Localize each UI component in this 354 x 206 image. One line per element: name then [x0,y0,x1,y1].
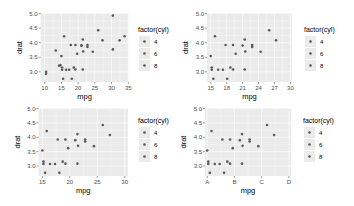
data-point [54,49,57,52]
data-point [268,29,271,32]
legend-title: factor(cyl) [138,117,169,125]
legend-point-icon [143,143,146,146]
y-axis-label: drat [15,40,24,54]
y-tick-label: 3.0 [194,163,203,169]
x-tick-label: 27 [271,85,278,91]
data-point [61,66,64,69]
data-point [241,44,244,47]
legend-label: 4 [320,39,324,45]
data-point [207,160,210,163]
data-point [243,38,246,41]
data-point [273,134,276,137]
x-tick-label: 15 [58,85,65,91]
data-point [63,35,66,38]
data-point [209,55,212,58]
legend-point-icon [308,155,311,158]
chart-panel-bottom-right: ABCD3.03.54.04.55.0mpgdratfactor(cyl)468 [179,106,334,195]
x-axis-label: mpg [241,186,256,195]
y-tick-label: 4.5 [194,120,203,126]
x-tick-label: 15 [207,85,214,91]
data-point [97,29,100,32]
data-point [210,130,213,133]
data-point [61,160,64,163]
data-point [42,163,45,166]
data-point [69,44,72,47]
data-point [80,44,83,47]
y-tick-label: 3.5 [196,54,205,60]
data-point [214,35,217,38]
x-tick-label: 30 [108,85,115,91]
data-point [223,172,226,175]
data-point [239,139,242,142]
legend-point-icon [309,52,312,55]
legend-label: 8 [319,154,323,160]
x-tick-label: 21 [239,85,246,91]
data-point [45,71,48,74]
data-point [218,163,221,166]
y-axis-label: drat [179,135,188,149]
chart-panel-top-left: 1015202530353.03.54.04.55.0mpgdratfactor… [15,11,169,101]
data-point [74,139,77,142]
data-point [70,77,73,80]
data-point [60,55,63,58]
data-point [257,145,260,148]
data-point [58,172,61,175]
chart-canvas: 1015202530353.03.54.04.55.0mpgdratfactor… [0,0,354,206]
data-point [76,133,79,136]
x-tick-label: 30 [121,179,128,185]
data-point [212,77,215,80]
data-point [62,77,65,80]
y-tick-label: 4.5 [196,25,205,31]
y-tick-label: 3.5 [27,149,36,155]
data-point [232,68,235,71]
data-point [234,52,237,55]
legend-label: 8 [154,154,158,160]
data-point [54,163,57,166]
y-axis-label: drat [181,40,190,54]
legend-label: 4 [154,130,158,136]
data-point [82,68,85,71]
data-point [59,64,62,67]
y-tick-label: 3.5 [194,149,203,155]
y-tick-label: 4.0 [194,134,203,140]
data-point [209,172,212,175]
legend-point-icon [143,40,146,43]
data-point [68,68,71,71]
data-point [123,35,126,38]
legend-point-icon [309,40,312,43]
legend: factor(cyl)468 [304,26,335,71]
data-point [76,52,79,55]
data-point [64,138,67,141]
x-tick-label: 35 [125,85,132,91]
legend-label: 6 [154,142,158,148]
data-point [213,163,216,166]
data-point [101,39,104,42]
legend-point-icon [309,64,312,67]
legend-point-icon [308,143,311,146]
x-tick-label: 20 [66,179,73,185]
data-point [82,50,85,53]
data-point [118,39,121,42]
x-tick-label: 20 [75,85,82,91]
data-point [92,50,95,53]
data-point [217,68,220,71]
data-point [207,163,210,166]
legend-point-icon [308,131,311,134]
data-point [93,145,96,148]
x-tick-label: B [232,179,236,185]
legend-point-icon [143,155,146,158]
data-point [109,134,112,137]
data-point [243,68,246,71]
y-tick-label: 5.0 [194,106,203,112]
legend-title: factor(cyl) [303,117,334,125]
legend-point-icon [143,131,146,134]
data-point [226,77,229,80]
y-tick-label: 3.0 [27,163,36,169]
data-point [222,68,225,71]
legend-label: 4 [319,130,323,136]
legend-label: 8 [154,63,158,69]
data-point [84,138,87,141]
y-tick-label: 4.5 [29,25,38,31]
data-point [241,145,244,148]
chart-panel-bottom-left: 152025303.03.54.04.55.0mpgdratfactor(cyl… [13,106,169,195]
